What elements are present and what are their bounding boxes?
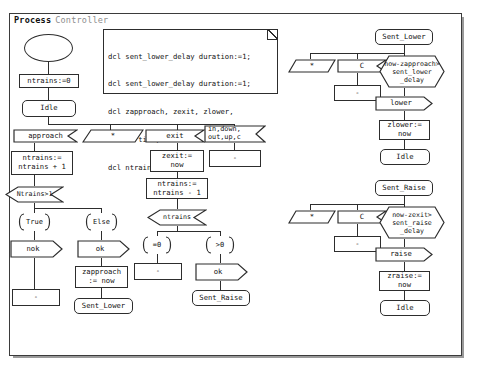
connector <box>48 88 49 100</box>
sdl-diagram-canvas: ProcessController <box>0 0 479 373</box>
decl-line: dcl sent_lower_delay duration:=1; <box>108 52 251 61</box>
declaration-text-box: dcl sent_lower_delay duration:=1; dcl se… <box>103 29 278 94</box>
connector <box>404 291 405 300</box>
state-idle-lower: Idle <box>380 149 430 165</box>
connector <box>34 175 35 186</box>
connector <box>34 231 35 240</box>
nextstate-dash-misc: - <box>209 150 261 167</box>
connector <box>404 262 405 271</box>
nextstate-dash-c2: - <box>334 236 381 252</box>
dog-ear-corner <box>267 30 277 40</box>
output-raise-label: raise <box>375 250 433 259</box>
nextstate-dash-c1: - <box>334 85 381 101</box>
decision-ntrains: ntrains <box>147 209 207 226</box>
process-name: Controller <box>51 15 108 25</box>
output-lower-label: lower <box>375 99 433 108</box>
output-ok-left-label: ok <box>77 245 130 254</box>
output-ok-right-label: ok <box>195 268 248 277</box>
connector <box>34 258 35 289</box>
input-approach-label: approach <box>13 132 78 141</box>
branch-true-label: True <box>16 218 53 227</box>
input-exit: exit <box>145 129 205 143</box>
connector <box>101 231 102 240</box>
save-star-1: * <box>82 129 144 143</box>
branch-true: True <box>16 213 53 231</box>
connector <box>48 62 49 74</box>
input-misc-signals-label: in,down, out,up,c <box>204 126 266 142</box>
connector <box>404 239 405 247</box>
task-zraise: zraise:= now <box>379 271 430 291</box>
save-star-2-label: * <box>288 62 336 71</box>
branch-eq-zero: =0 <box>140 236 174 254</box>
connector <box>404 140 405 149</box>
state-sent-raise-top: Sent_Raise <box>375 180 433 196</box>
decision-ntrains-gt-1: Ntrains>1 <box>5 186 64 203</box>
start-symbol <box>24 34 73 62</box>
task-zexit: zexit:= now <box>150 150 204 172</box>
connector <box>404 196 405 204</box>
condition-lower-label: now-zapproach> sent_lower _delay <box>379 60 445 84</box>
save-star-3: * <box>288 210 336 224</box>
process-keyword: Process <box>14 15 51 25</box>
state-idle-main: Idle <box>22 100 76 117</box>
condition-lower: now-zapproach> sent_lower _delay <box>379 55 445 88</box>
output-nok-label: nok <box>10 245 63 254</box>
decision-ntrains-label: ntrains <box>147 213 207 222</box>
output-nok: nok <box>10 240 63 258</box>
connector <box>157 231 221 232</box>
condition-raise-label: now-zexit> sent_raise _delay <box>379 211 445 235</box>
task-init-ntrains: ntrains:=0 <box>19 74 79 88</box>
process-title: ProcessController <box>14 15 108 25</box>
input-approach: approach <box>13 129 78 143</box>
task-zapproach: zapproach := now <box>75 266 128 288</box>
connector <box>404 88 405 96</box>
connector <box>48 117 49 124</box>
connector <box>34 143 35 151</box>
save-star-2: * <box>288 59 336 73</box>
save-star-1-label: * <box>82 132 144 141</box>
output-ok-left: ok <box>77 240 130 258</box>
branch-gt-zero-label: >0 <box>203 241 237 250</box>
branch-gt-zero: >0 <box>203 236 237 254</box>
connector <box>220 254 221 263</box>
task-decrement-ntrains: ntrains:= ntrains - 1 <box>146 178 208 199</box>
state-sent-raise-bottom: Sent_Raise <box>192 290 250 306</box>
connector <box>357 73 358 85</box>
connector <box>220 281 221 290</box>
connector <box>101 288 102 298</box>
output-raise: raise <box>375 247 433 262</box>
connector <box>34 208 102 209</box>
task-zlower: zlower:= now <box>379 120 430 140</box>
connector <box>357 224 358 236</box>
branch-eq-zero-label: =0 <box>140 241 174 250</box>
input-misc-signals: in,down, out,up,c <box>204 125 266 143</box>
state-sent-lower-bottom: Sent_Lower <box>74 298 133 314</box>
condition-raise: now-zexit> sent_raise _delay <box>379 206 445 239</box>
state-idle-raise: Idle <box>380 300 430 316</box>
nextstate-dash-eq-zero: - <box>134 263 182 280</box>
decl-line: dcl zapproach, zexit, zlower, <box>108 107 251 116</box>
save-star-3-label: * <box>288 213 336 222</box>
branch-else-label: Else <box>83 218 120 227</box>
decision-ntrains-gt-1-label: Ntrains>1 <box>5 190 64 199</box>
connector <box>404 111 405 120</box>
task-increment-ntrains: ntrains:= ntrains + 1 <box>11 151 73 175</box>
output-lower: lower <box>375 96 433 111</box>
connector <box>404 45 405 53</box>
connector <box>177 199 178 209</box>
output-ok-right: ok <box>195 263 248 281</box>
state-sent-lower-top: Sent_Lower <box>375 29 433 45</box>
connector <box>101 258 102 266</box>
branch-else: Else <box>83 213 120 231</box>
input-exit-label: exit <box>145 132 205 141</box>
nextstate-dash-nok: - <box>12 289 60 306</box>
connector <box>157 254 158 263</box>
decl-line: dcl sent_lower_delay duration:=1; <box>108 79 251 88</box>
